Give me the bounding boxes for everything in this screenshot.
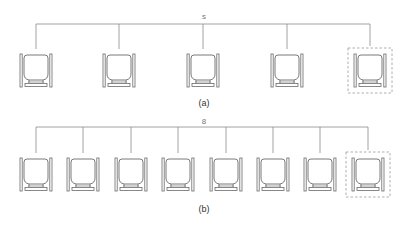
seat-icon	[67, 158, 99, 191]
seat-icon	[271, 54, 303, 87]
seating-diagram	[0, 0, 408, 226]
seat-icon	[210, 158, 242, 191]
seat-icon	[103, 54, 135, 87]
panel-b-caption: (b)	[199, 204, 210, 214]
seat-icon	[257, 158, 289, 191]
seat-icon	[304, 158, 336, 191]
seat-icon	[187, 54, 219, 87]
seat-icon	[346, 152, 390, 197]
seat-icon	[20, 54, 52, 87]
panel-a	[20, 24, 392, 93]
seat-icon	[162, 158, 194, 191]
panel-a-caption: (a)	[199, 98, 210, 108]
seat-icon	[115, 158, 147, 191]
seat-icon	[20, 158, 52, 191]
panel-b	[20, 127, 390, 197]
seat-icon	[348, 48, 392, 93]
panel-b-group-label: 8	[202, 117, 206, 126]
panel-a-group-label: s	[202, 12, 206, 21]
